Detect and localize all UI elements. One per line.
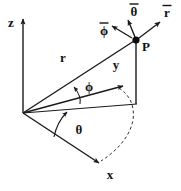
- point-p-label: P: [142, 39, 150, 54]
- z-axis-label: z: [8, 15, 14, 30]
- azimuth-dashed-arc: [101, 88, 133, 161]
- x-axis-label: x: [107, 167, 114, 182]
- spherical-coordinates-figure: z y x P r θ ϕ r ϕ θ: [0, 0, 181, 191]
- phi-hat-label: ϕ: [100, 23, 108, 38]
- phi-angle-arc: [74, 87, 80, 104]
- theta-angle-arc: [54, 112, 67, 137]
- x-axis: [23, 113, 99, 163]
- theta-angle-label: θ: [76, 122, 83, 137]
- radius-ray: [23, 41, 134, 113]
- theta-hat-label: θ: [131, 4, 138, 19]
- theta-hat-vector: [128, 20, 135, 37]
- r-hat-vector: [139, 22, 160, 38]
- point-p-marker: [132, 36, 139, 43]
- coordinate-system-svg: z y x P r θ ϕ r ϕ θ: [0, 0, 181, 191]
- phi-angle-label: ϕ: [85, 79, 93, 94]
- radius-label: r: [60, 50, 66, 65]
- r-hat-label: r: [164, 5, 170, 20]
- y-axis-label: y: [113, 57, 120, 72]
- phi-hat-vector: [112, 26, 132, 38]
